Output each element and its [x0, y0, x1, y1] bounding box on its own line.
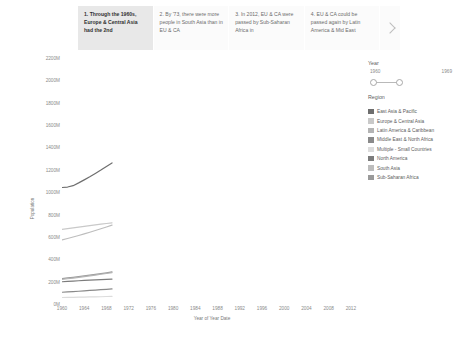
legend-swatch-icon — [368, 147, 374, 153]
x-axis-label: Year of Year Date — [62, 316, 362, 321]
y-tick-label: 1600M — [20, 123, 60, 128]
legend-item[interactable]: Latin America & Caribbean — [368, 126, 464, 135]
series-lines — [62, 58, 362, 304]
year-max-label: 1969 — [442, 69, 452, 74]
series-line[interactable] — [62, 279, 112, 282]
year-filter-title: Year — [368, 60, 464, 66]
line-chart: Population 0M200M400M600M800M1000M1200M1… — [0, 58, 366, 333]
legend-item[interactable]: South Asia — [368, 163, 464, 172]
y-tick-label: 1800M — [20, 100, 60, 105]
legend-item-label: East Asia & Pacific — [377, 109, 417, 114]
series-line[interactable] — [62, 223, 112, 230]
legend-swatch-icon — [368, 156, 374, 162]
y-tick-label: 2200M — [20, 56, 60, 61]
x-tick-label: 1984 — [190, 306, 200, 311]
y-tick-label: 1400M — [20, 145, 60, 150]
story-tab-3[interactable]: 3. In 2012, EU & CA were passed by Sub-S… — [229, 6, 305, 50]
slider-handle-max[interactable] — [396, 79, 403, 86]
x-tick-label: 1988 — [212, 306, 222, 311]
story-tab-2[interactable]: 2. By '73, there were more people in Sou… — [154, 6, 230, 50]
y-tick-label: 1000M — [20, 190, 60, 195]
legend-item-label: North America — [377, 156, 407, 161]
x-tick-label: 1976 — [146, 306, 156, 311]
chevron-right-icon — [385, 22, 396, 33]
legend-item-label: Multiple - Small Countries — [377, 147, 432, 152]
story-tab-4[interactable]: 4. EU & CA could be passed again by Lati… — [305, 6, 381, 50]
legend-swatch-icon — [368, 118, 374, 124]
plot-area — [62, 58, 362, 304]
x-tick-label: 1968 — [101, 306, 111, 311]
legend-swatch-icon — [368, 175, 374, 181]
year-range-slider[interactable] — [368, 78, 464, 88]
story-tab-strip: 1. Through the 1960s, Europe & Central A… — [78, 6, 400, 50]
legend-swatch-icon — [368, 128, 374, 134]
series-line[interactable] — [62, 272, 112, 279]
legend-swatch-icon — [368, 137, 374, 143]
story-next-button[interactable] — [380, 6, 400, 50]
legend-item[interactable]: Sub-Saharan Africa — [368, 173, 464, 182]
series-line[interactable] — [62, 296, 112, 297]
legend-item-label: South Asia — [377, 166, 400, 171]
legend-item[interactable]: North America — [368, 154, 464, 163]
x-tick-label: 1996 — [257, 306, 267, 311]
legend-item[interactable]: Middle East & North Africa — [368, 135, 464, 144]
x-tick-label: 1972 — [123, 306, 133, 311]
legend-item-label: Sub-Saharan Africa — [377, 175, 419, 180]
story-dashboard: 1. Through the 1960s, Europe & Central A… — [0, 0, 467, 338]
legend-item[interactable]: Multiple - Small Countries — [368, 145, 464, 154]
x-tick-label: 1964 — [79, 306, 89, 311]
legend-item-label: Latin America & Caribbean — [377, 128, 434, 133]
year-range-labels: 1960 1969 — [368, 69, 464, 77]
y-tick-label: 200M — [20, 279, 60, 284]
series-line[interactable] — [62, 289, 112, 292]
x-tick-label: 2008 — [323, 306, 333, 311]
x-tick-label: 1980 — [168, 306, 178, 311]
y-tick-label: 600M — [20, 234, 60, 239]
y-tick-label: 0M — [20, 302, 60, 307]
legend-item[interactable]: Europe & Central Asia — [368, 116, 464, 125]
x-tick-label: 2004 — [301, 306, 311, 311]
filter-panel: Year 1960 1969 Region East Asia & Pacifi… — [368, 60, 464, 182]
series-line[interactable] — [62, 273, 112, 280]
slider-handle-min[interactable] — [370, 79, 377, 86]
y-tick-label: 400M — [20, 257, 60, 262]
legend-item[interactable]: East Asia & Pacific — [368, 107, 464, 116]
y-tick-label: 1200M — [20, 167, 60, 172]
region-legend: East Asia & PacificEurope & Central Asia… — [368, 107, 464, 182]
year-min-label: 1960 — [370, 69, 380, 74]
legend-item-label: Europe & Central Asia — [377, 119, 424, 124]
legend-swatch-icon — [368, 165, 374, 171]
x-tick-label: 1960 — [57, 306, 67, 311]
y-axis-ticks: 0M200M400M600M800M1000M1200M1400M1600M18… — [16, 58, 60, 304]
y-tick-label: 800M — [20, 212, 60, 217]
story-tab-1[interactable]: 1. Through the 1960s, Europe & Central A… — [78, 6, 154, 50]
x-tick-label: 1992 — [235, 306, 245, 311]
slider-track — [375, 82, 397, 83]
legend-item-label: Middle East & North Africa — [377, 137, 433, 142]
series-line[interactable] — [62, 163, 112, 188]
x-tick-label: 2000 — [279, 306, 289, 311]
series-line[interactable] — [62, 225, 112, 240]
legend-swatch-icon — [368, 109, 374, 115]
y-tick-label: 2000M — [20, 78, 60, 83]
x-tick-label: 2012 — [346, 306, 356, 311]
region-legend-title: Region — [368, 94, 464, 100]
